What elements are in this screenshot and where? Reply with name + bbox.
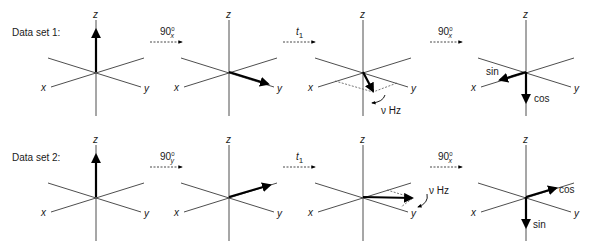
pulse-label: 900x [160, 26, 175, 39]
y-axis-label: y [573, 83, 580, 94]
panel-row2-2: z x y [173, 134, 283, 241]
cos-label: cos [559, 184, 575, 195]
vector-diagram: z x y 900x z x y t1 ν Hz z x y 900x [0, 0, 595, 249]
x-axis-label: x [307, 82, 314, 93]
y-axis-label: y [410, 83, 417, 94]
cos-label: cos [534, 93, 550, 104]
magnetization-vector [363, 197, 412, 198]
cos-component-vector [526, 188, 556, 197]
panel-row1-4: sin cos z x y [470, 9, 580, 116]
step-arrow-row1-3: 900x [430, 26, 462, 42]
y-axis-label: y [143, 208, 150, 219]
panel-row1-2: z x y [173, 9, 283, 116]
sin-label: sin [533, 219, 546, 230]
step-arrow-row2-1: 900y [150, 151, 182, 167]
delay-label: t1 [296, 151, 304, 165]
y-axis-label: y [573, 208, 580, 219]
y-axis-label: y [410, 208, 417, 219]
magnetization-vector [229, 72, 268, 84]
precession-arrow-icon [418, 194, 427, 207]
z-axis-label: z [225, 134, 231, 145]
panel-row1-3: ν Hz z x y [307, 9, 417, 116]
x-axis-label: x [307, 207, 314, 218]
z-axis-label: z [92, 134, 98, 145]
panel-row2-3: ν Hz z x y [307, 134, 449, 241]
y-axis-label: y [276, 208, 283, 219]
x-axis-label: x [40, 207, 47, 218]
x-axis-label: x [173, 207, 180, 218]
z-axis-label: z [359, 134, 365, 145]
pulse-label: 900x [438, 26, 453, 39]
y-axis-label: y [276, 83, 283, 94]
magnetization-vector [229, 185, 270, 197]
sin-label: sin [486, 66, 499, 77]
pulse-label: 900x [438, 151, 453, 164]
x-axis-label: x [173, 82, 180, 93]
step-arrow-row1-2: t1 [283, 26, 315, 42]
z-axis-label: z [522, 9, 528, 20]
delay-label: t1 [296, 26, 304, 40]
z-axis-label: z [92, 9, 98, 20]
z-axis-label: z [359, 9, 365, 20]
z-axis-label: z [225, 9, 231, 20]
y-axis-label: y [143, 83, 150, 94]
step-arrow-row2-3: 900x [430, 151, 462, 167]
step-arrow-row1-1: 900x [150, 26, 182, 42]
pulse-label: 900y [160, 151, 175, 165]
panel-row2-4: cos sin z x y [470, 134, 580, 241]
x-axis-label: x [470, 207, 477, 218]
sin-component-vector [500, 72, 526, 80]
frequency-label: ν Hz [429, 185, 449, 196]
panel-row1-1: z x y [40, 9, 150, 116]
step-arrow-row2-2: t1 [283, 151, 315, 167]
precession-arrow-icon [372, 95, 385, 103]
x-axis-label: x [470, 82, 477, 93]
panel-row2-1: z x y [40, 134, 150, 241]
x-axis-label: x [40, 82, 47, 93]
frequency-label: ν Hz [381, 105, 401, 116]
z-axis-label: z [522, 134, 528, 145]
